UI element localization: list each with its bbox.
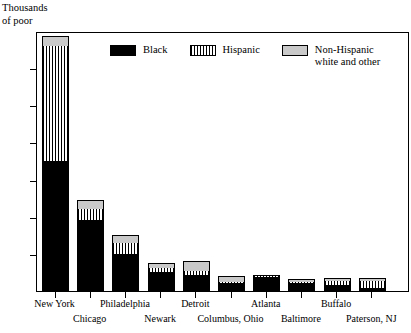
bar-segment-hispanic — [112, 243, 139, 253]
x-axis-tick-label: Columbus, Ohio — [197, 313, 263, 324]
bar-paterson-nj — [359, 278, 386, 291]
bar-segment-non-hispanic-white-and-other — [77, 200, 104, 209]
legend-label: Black — [143, 44, 168, 56]
bar-segment-hispanic — [42, 46, 69, 161]
legend-swatch-icon — [110, 45, 136, 56]
x-axis-tick-mark — [301, 292, 302, 298]
bar-segment-non-hispanic-white-and-other — [183, 261, 210, 271]
legend-label: Hispanic — [223, 44, 260, 56]
bar-buffalo — [324, 278, 351, 291]
bar-segment-hispanic — [359, 281, 386, 288]
x-axis-tick-label: Paterson, NJ — [346, 313, 397, 324]
bar-segment-black — [253, 277, 280, 291]
bar-segment-black — [288, 283, 315, 291]
bar-segment-hispanic — [77, 209, 104, 219]
bar-chicago — [77, 200, 104, 291]
bar-segment-black — [77, 220, 104, 291]
bar-segment-black — [42, 161, 69, 291]
bar-segment-black — [218, 283, 245, 291]
bar-atlanta — [253, 275, 280, 291]
bar-segment-black — [148, 272, 175, 291]
x-axis-tick-label: Baltimore — [281, 313, 321, 324]
bar-columbus-ohio — [218, 276, 245, 291]
x-axis-tick-label: Detroit — [181, 298, 209, 309]
bar-segment-black — [112, 254, 139, 291]
x-axis-tick-label: Chicago — [73, 313, 106, 324]
bar-detroit — [183, 261, 210, 291]
bar-newark — [148, 263, 175, 291]
x-axis-tick-mark — [160, 292, 161, 298]
y-axis-title: Thousands of poor — [2, 2, 48, 27]
bar-baltimore — [288, 279, 315, 291]
x-axis-tick-label: Newark — [144, 313, 176, 324]
bars-container — [37, 33, 408, 291]
bar-segment-black — [324, 285, 351, 291]
chart-figure: Thousands of poor 050100150200250300350 … — [0, 0, 411, 333]
bar-segment-black — [359, 288, 386, 291]
x-axis-tick-mark — [371, 292, 372, 298]
x-axis-tick-mark — [231, 292, 232, 298]
legend-item-non-hispanic-white-and-other: Non-Hispanic white and other — [282, 44, 380, 68]
x-axis-tick-mark — [90, 292, 91, 298]
bar-new-york — [42, 36, 69, 291]
x-axis-tick-label: New York — [34, 298, 75, 309]
legend-swatch-icon — [282, 45, 308, 56]
legend-label: Non-Hispanic white and other — [315, 44, 380, 68]
chart-legend: BlackHispanicNon-Hispanic white and othe… — [110, 44, 380, 68]
bar-segment-black — [183, 275, 210, 291]
plot-area — [36, 32, 409, 292]
x-axis-tick-label: Atlanta — [251, 298, 280, 309]
bar-philadelphia — [112, 235, 139, 291]
legend-item-hispanic: Hispanic — [190, 44, 260, 56]
x-axis-tick-label: Buffalo — [321, 298, 351, 309]
legend-swatch-icon — [190, 45, 216, 56]
legend-item-black: Black — [110, 44, 168, 56]
bar-segment-non-hispanic-white-and-other — [112, 235, 139, 244]
x-axis-tick-label: Philadelphia — [100, 298, 150, 309]
bar-segment-non-hispanic-white-and-other — [42, 36, 69, 46]
